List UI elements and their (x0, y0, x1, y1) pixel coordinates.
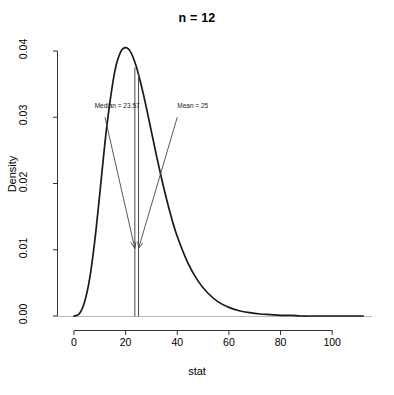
x-tick-label: 100 (323, 336, 341, 348)
x-axis-label: stat (0, 365, 394, 377)
annotation-leader-median (105, 117, 135, 248)
annotation-label-mean: Mean = 25 (177, 102, 208, 109)
y-tick-label: 0.01 (17, 225, 29, 271)
density-curve (74, 48, 363, 316)
x-tick-label: 60 (223, 336, 235, 348)
x-tick-label: 20 (120, 336, 132, 348)
y-tick-label: 0.00 (17, 291, 29, 337)
y-tick-label: 0.03 (17, 92, 29, 138)
x-tick-label: 40 (171, 336, 183, 348)
annotation-label-median: Median = 23.57 (95, 102, 140, 109)
x-tick-label: 80 (275, 336, 287, 348)
x-tick-label: 0 (71, 336, 77, 348)
annotation-leader-mean (139, 117, 178, 248)
density-plot-figure: n = 12 stat Density 020406080100 0.000.0… (0, 0, 394, 395)
y-tick-label: 0.02 (17, 159, 29, 205)
y-tick-label: 0.04 (17, 26, 29, 72)
